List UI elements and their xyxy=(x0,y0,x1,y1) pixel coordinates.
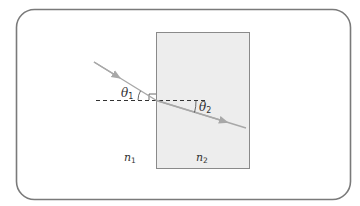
theta1-label: θ1 xyxy=(121,86,133,101)
n1-label: n1 xyxy=(124,151,136,165)
incident-ray-arrow xyxy=(94,62,117,76)
theta1-arc xyxy=(138,91,141,100)
refraction-diagram: θ1 θ2 n1 n2 xyxy=(0,0,360,206)
